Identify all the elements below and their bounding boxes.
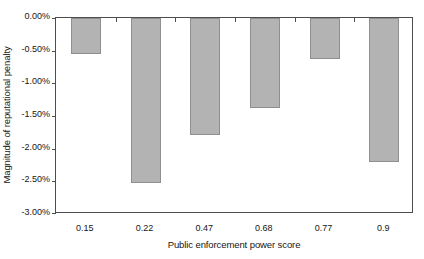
x-axis-tick-label: 0.22 — [136, 222, 154, 234]
x-axis-tick-labels: 0.150.220.470.680.770.9 — [55, 222, 413, 234]
bar[interactable] — [310, 18, 340, 59]
y-axis-tick-labels: 0.00%-0.50%-1.00%-1.50%-2.00%-2.50%-3.00… — [14, 0, 50, 259]
bar[interactable] — [71, 18, 101, 54]
x-axis-tick-label: 0.77 — [315, 222, 333, 234]
x-axis-tick-label: 0.68 — [255, 222, 273, 234]
y-axis-tick-label: -1.50% — [14, 110, 50, 119]
y-axis-tick-label: -2.00% — [14, 143, 50, 152]
y-axis-tick-label: -1.00% — [14, 77, 50, 86]
bars-layer — [56, 18, 412, 212]
bar[interactable] — [369, 18, 399, 162]
y-axis-tick-label: -3.00% — [14, 208, 50, 217]
plot-area — [55, 17, 413, 213]
y-axis-tick-label: -0.50% — [14, 45, 50, 54]
x-axis-tick-label: 0.47 — [195, 222, 213, 234]
bar[interactable] — [190, 18, 220, 135]
x-axis-tick-label: 0.9 — [377, 222, 390, 234]
bar-chart-figure: Magnitude of reputational penalty 0.00%-… — [0, 0, 424, 259]
bar[interactable] — [131, 18, 161, 183]
x-axis-tick-label: 0.15 — [76, 222, 94, 234]
y-axis-tick-label: 0.00% — [14, 12, 50, 21]
x-axis-title: Public enforcement power score — [55, 239, 413, 251]
bar[interactable] — [250, 18, 280, 108]
y-axis-title: Magnitude of reputational penalty — [0, 17, 14, 213]
y-axis-tick-label: -2.50% — [14, 175, 50, 184]
y-axis-tick-mark — [52, 213, 56, 214]
